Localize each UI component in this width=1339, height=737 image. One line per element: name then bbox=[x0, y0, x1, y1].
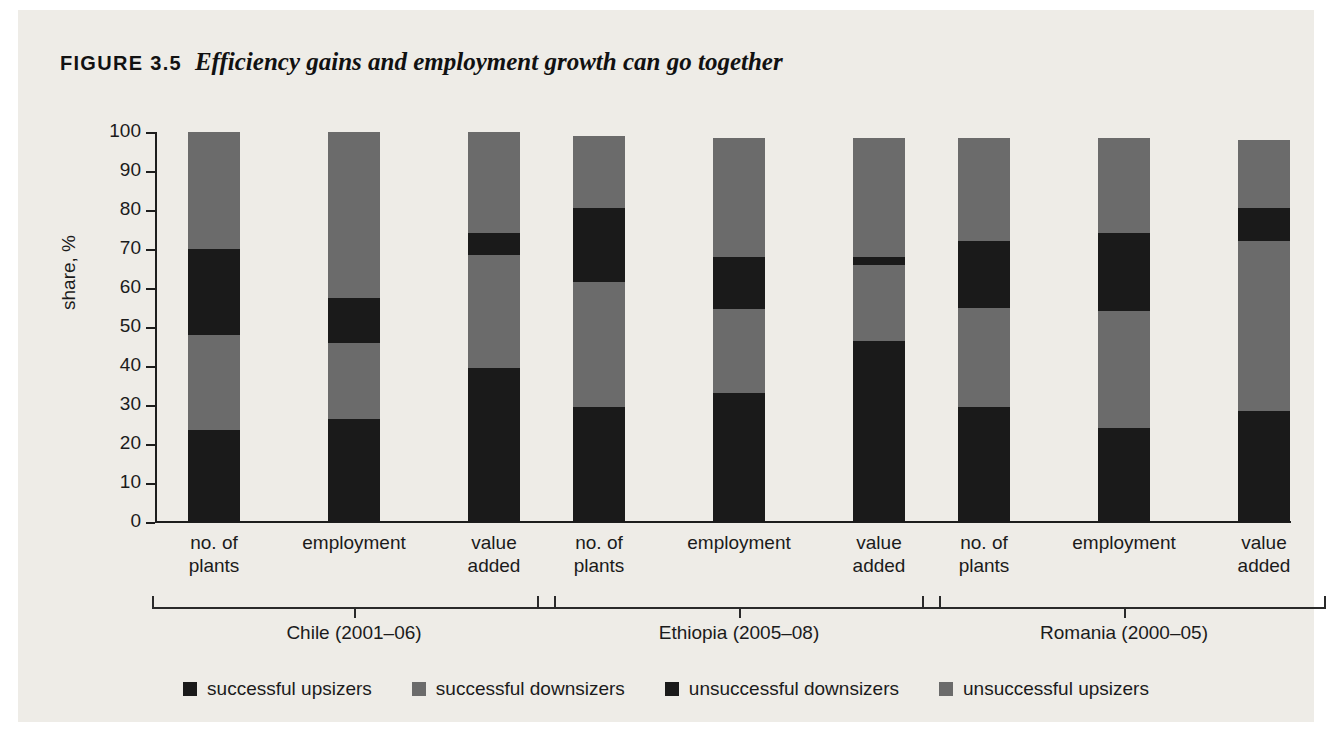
x-axis-category-label-group: employment bbox=[1054, 531, 1194, 554]
x-axis-category-label: no. of bbox=[914, 531, 1054, 554]
y-axis-tick bbox=[146, 288, 155, 290]
legend-label: successful downsizers bbox=[436, 678, 625, 700]
x-axis-category-label: value bbox=[1194, 531, 1334, 554]
group-label: Chile (2001–06) bbox=[152, 622, 556, 644]
x-axis-category-label-group: no. ofplants bbox=[914, 531, 1054, 577]
bar-segment bbox=[958, 241, 1010, 307]
legend-item: unsuccessful downsizers bbox=[665, 678, 899, 700]
y-axis-tick-label: 60 bbox=[89, 276, 141, 298]
bar-segment bbox=[1098, 233, 1150, 311]
bar-segment bbox=[713, 309, 765, 393]
bar-column bbox=[1238, 132, 1290, 522]
bar-segment bbox=[573, 282, 625, 407]
group-label: Romania (2000–05) bbox=[922, 622, 1326, 644]
bar-segment bbox=[958, 308, 1010, 407]
group-brace bbox=[922, 596, 1326, 609]
bar-segment bbox=[188, 335, 240, 431]
y-axis-tick bbox=[146, 132, 155, 134]
y-axis-tick-label: 30 bbox=[89, 393, 141, 415]
bar-column bbox=[328, 132, 380, 522]
y-axis-tick bbox=[146, 327, 155, 329]
bar-segment bbox=[468, 368, 520, 522]
figure-number-label: FIGURE 3.5 bbox=[60, 52, 182, 74]
bar-segment bbox=[573, 407, 625, 522]
group-brace bbox=[537, 596, 941, 609]
y-axis-tick-label: 100 bbox=[89, 120, 141, 142]
legend-item: successful downsizers bbox=[412, 678, 625, 700]
bar-segment bbox=[713, 393, 765, 522]
y-axis-tick bbox=[146, 210, 155, 212]
bar-segment bbox=[853, 257, 905, 265]
bar-column bbox=[853, 132, 905, 522]
y-axis-tick-label: 40 bbox=[89, 354, 141, 376]
bar-segment bbox=[468, 255, 520, 368]
bar-column bbox=[713, 132, 765, 522]
bar-segment bbox=[573, 136, 625, 208]
legend-swatch-icon bbox=[412, 682, 426, 696]
y-axis-tick-label: 50 bbox=[89, 315, 141, 337]
x-axis-category-label-group: employment bbox=[669, 531, 809, 554]
y-axis-tick-label: 20 bbox=[89, 432, 141, 454]
bar-segment bbox=[468, 132, 520, 233]
legend-label: unsuccessful downsizers bbox=[689, 678, 899, 700]
x-axis-category-label: plants bbox=[144, 554, 284, 577]
x-axis-category-label: employment bbox=[669, 531, 809, 554]
bar-segment bbox=[1238, 411, 1290, 522]
x-axis-category-label: plants bbox=[529, 554, 669, 577]
bar-segment bbox=[328, 132, 380, 298]
bar-segment bbox=[1238, 140, 1290, 208]
y-axis-label: share, % bbox=[58, 235, 80, 310]
page-title: Efficiency gains and employment growth c… bbox=[195, 48, 783, 75]
plot-area bbox=[155, 132, 1290, 522]
y-axis-tick bbox=[146, 171, 155, 173]
group-brace-tick bbox=[739, 609, 741, 618]
legend-swatch-icon bbox=[665, 682, 679, 696]
y-axis-tick-label: 80 bbox=[89, 198, 141, 220]
bar-segment bbox=[853, 138, 905, 257]
y-axis-tick bbox=[146, 366, 155, 368]
group-brace-tick bbox=[354, 609, 356, 618]
x-axis-category-label-group: valueadded bbox=[1194, 531, 1334, 577]
group-label: Ethiopia (2005–08) bbox=[537, 622, 941, 644]
bar-segment bbox=[1098, 138, 1150, 234]
bar-column bbox=[1098, 132, 1150, 522]
bar-segment bbox=[328, 298, 380, 343]
x-axis-category-label: no. of bbox=[144, 531, 284, 554]
bar-segment bbox=[713, 138, 765, 257]
x-axis-category-label: added bbox=[1194, 554, 1334, 577]
bar-segment bbox=[573, 208, 625, 282]
y-axis-tick bbox=[146, 483, 155, 485]
legend-label: successful upsizers bbox=[207, 678, 372, 700]
bar-column bbox=[573, 132, 625, 522]
bar-segment bbox=[713, 257, 765, 310]
y-axis-tick-label: 90 bbox=[89, 159, 141, 181]
chart-legend: successful upsizerssuccessful downsizers… bbox=[18, 678, 1314, 700]
bar-column bbox=[468, 132, 520, 522]
figure-panel: FIGURE 3.5Efficiency gains and employmen… bbox=[18, 10, 1314, 722]
bar-segment bbox=[958, 407, 1010, 522]
y-axis-tick bbox=[146, 522, 155, 524]
y-axis-tick-label: 10 bbox=[89, 471, 141, 493]
legend-item: unsuccessful upsizers bbox=[939, 678, 1149, 700]
bar-segment bbox=[958, 138, 1010, 241]
legend-label: unsuccessful upsizers bbox=[963, 678, 1149, 700]
y-axis-tick-label: 0 bbox=[89, 510, 141, 532]
bar-column bbox=[958, 132, 1010, 522]
legend-swatch-icon bbox=[183, 682, 197, 696]
legend-swatch-icon bbox=[939, 682, 953, 696]
y-axis-tick bbox=[146, 405, 155, 407]
bar-segment bbox=[1238, 208, 1290, 241]
x-axis-category-label-group: employment bbox=[284, 531, 424, 554]
bar-segment bbox=[328, 343, 380, 419]
group-brace bbox=[152, 596, 556, 609]
bar-segment bbox=[1098, 428, 1150, 522]
bar-segment bbox=[853, 265, 905, 341]
bar-segment bbox=[188, 249, 240, 335]
y-axis-tick bbox=[146, 249, 155, 251]
x-axis-category-label: no. of bbox=[529, 531, 669, 554]
x-axis-category-label-group: no. ofplants bbox=[144, 531, 284, 577]
bar-column bbox=[188, 132, 240, 522]
bar-segment bbox=[1238, 241, 1290, 411]
y-axis-tick-label: 70 bbox=[89, 237, 141, 259]
bar-segment bbox=[853, 341, 905, 522]
